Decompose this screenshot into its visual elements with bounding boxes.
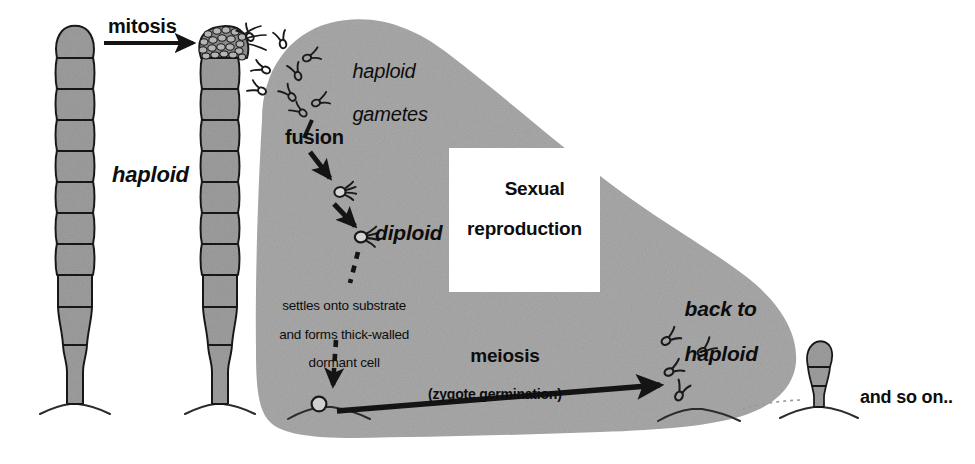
holdfast-left [63,344,87,404]
label-diploid: diploid [375,222,442,244]
basal-cell-mid [203,306,237,345]
dormant-cell [312,397,327,412]
substrate-line-mid [185,404,255,414]
substrate-line-germling [780,407,858,418]
substrate-line-left [40,404,110,414]
figure-canvas: mitosis haploid haploid gametes fusion d… [0,0,975,464]
apical-cell-left [56,26,94,58]
filament-haploid-sporangium [185,26,266,414]
label-meiosis-main: meiosis [470,345,539,366]
label-fusion: fusion [285,127,344,148]
germling-cell-lower [808,366,830,386]
sporangium [199,26,266,60]
label-and-so-on: and so on.. [860,388,953,407]
filament-cells-left [56,26,95,307]
label-haploid-left: haploid [112,163,189,186]
filament-haploid-plain [40,26,110,414]
label-sexual-line1: Sexual [505,178,565,199]
label-settles-note: settles onto substrate and forms thick-w… [265,285,409,385]
label-settles-line1: settles onto substrate [282,298,406,313]
label-meiosis-sub: (zygote germination) [428,387,562,402]
label-settles-line2: and forms thick-walled [279,327,409,342]
germling-cell-upper [807,341,832,367]
label-back-to-haploid-line1: back to [685,297,757,320]
label-meiosis: meiosis (zygote germination) [428,326,562,442]
holdfast-mid [208,344,232,404]
label-settles-line3: dormant cell [309,355,380,370]
label-mitosis: mitosis [108,16,177,37]
label-haploid-gametes-line1: haploid [352,60,415,82]
label-back-to-haploid-line2: haploid [685,342,758,365]
label-back-to-haploid: back to haploid [662,276,758,387]
label-haploid-gametes-line2: gametes [352,103,427,125]
label-haploid-gametes: haploid gametes [331,40,428,146]
germling-holdfast [812,385,826,407]
filament-cells-mid [201,57,240,307]
label-sexual-line2: reproduction [449,219,600,239]
basal-cell-left [58,306,92,345]
label-sexual-reproduction: Sexual reproduction [449,148,600,292]
